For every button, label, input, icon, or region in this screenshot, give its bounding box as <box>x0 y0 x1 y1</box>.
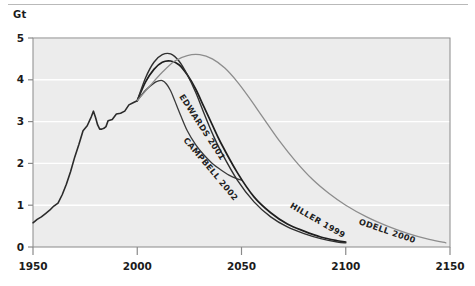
x-tick-label: 2000 <box>123 260 152 272</box>
plot-background <box>33 38 450 247</box>
x-tick-label: 2100 <box>331 260 360 272</box>
x-tick-label: 1950 <box>18 260 47 272</box>
y-tick-label: 4 <box>17 73 24 85</box>
y-tick-label: 3 <box>17 115 24 127</box>
y-tick-label: 5 <box>17 32 24 44</box>
oil-production-scenarios-chart: 01234519502000205021002150 EDWARDS 2001C… <box>0 0 475 286</box>
y-tick-label: 1 <box>17 199 24 211</box>
x-tick-label: 2050 <box>227 260 256 272</box>
chart-root: Gt 01234519502000205021002150 EDWARDS 20… <box>0 0 475 286</box>
x-tick-label: 2150 <box>435 260 464 272</box>
y-tick-label: 2 <box>17 157 24 169</box>
y-tick-label: 0 <box>17 241 24 253</box>
plot-area: 01234519502000205021002150 EDWARDS 2001C… <box>0 0 475 286</box>
